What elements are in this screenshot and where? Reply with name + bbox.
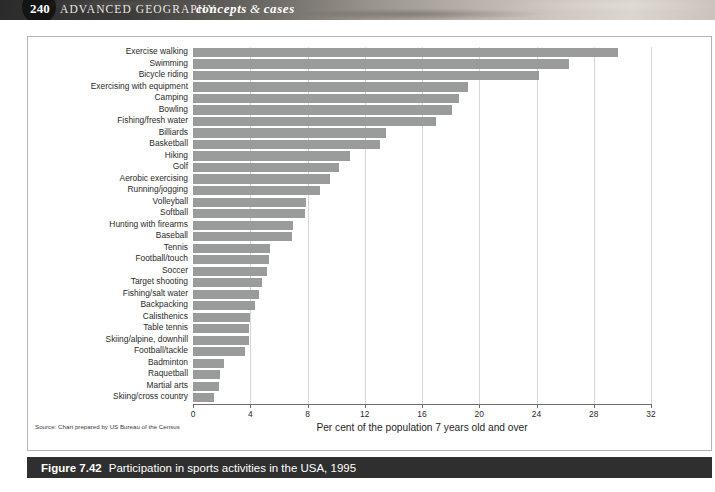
bar-row: Fishing/salt water xyxy=(193,289,651,301)
bar-row: Tennis xyxy=(193,243,651,255)
bar xyxy=(193,151,350,160)
x-tick-label: 0 xyxy=(191,409,196,419)
x-tick xyxy=(422,404,423,408)
bar-row: Volleyball xyxy=(193,197,651,209)
bar-row: Running/jogging xyxy=(193,185,651,197)
bar xyxy=(193,278,262,287)
category-label: Skiing/cross country xyxy=(113,391,188,403)
bar xyxy=(193,313,250,322)
page-header-banner: 240 ADVANCED GEOGRAPHY concepts&cases xyxy=(0,0,715,20)
bar-row: Table tennis xyxy=(193,323,651,335)
bar-row: Backpacking xyxy=(193,300,651,312)
category-label: Backpacking xyxy=(141,299,189,311)
bar xyxy=(193,290,259,299)
bar-row: Exercise walking xyxy=(193,47,651,59)
bar-row: Football/touch xyxy=(193,254,651,266)
category-label: Fishing/fresh water xyxy=(117,115,188,127)
bar xyxy=(193,140,380,149)
x-tick xyxy=(651,404,652,408)
bar xyxy=(193,221,293,230)
bar-row: Exercising with equipment xyxy=(193,82,651,94)
category-label: Bicycle riding xyxy=(139,69,188,81)
bar xyxy=(193,186,320,195)
x-tick-label: 28 xyxy=(589,409,598,419)
bar xyxy=(193,71,539,80)
page-number-blob xyxy=(22,0,56,20)
category-label: Exercising with equipment xyxy=(91,81,188,93)
x-tick xyxy=(537,404,538,408)
x-tick-label: 12 xyxy=(360,409,369,419)
category-label: Hiking xyxy=(165,150,188,162)
x-tick xyxy=(365,404,366,408)
bar-row: Aerobic exercising xyxy=(193,174,651,186)
bar-row: Hunting with firearms xyxy=(193,220,651,232)
category-label: Football/tackle xyxy=(134,345,188,357)
chart-panel: Exercise walkingSwimmingBicycle ridingEx… xyxy=(27,36,712,451)
bar xyxy=(193,163,339,172)
bar-row: Softball xyxy=(193,208,651,220)
x-tick xyxy=(193,404,194,408)
source-note: Source: Chart prepared by US Bureau of t… xyxy=(35,423,180,430)
book-title: ADVANCED GEOGRAPHY xyxy=(60,3,217,15)
bar-row: Raquetball xyxy=(193,369,651,381)
page-number: 240 xyxy=(27,1,53,17)
x-tick-label: 4 xyxy=(248,409,253,419)
bar-row: Camping xyxy=(193,93,651,105)
bar-row: Calisthenics xyxy=(193,312,651,324)
bar xyxy=(193,336,249,345)
category-label: Raquetball xyxy=(148,368,188,380)
bar-rows: Exercise walkingSwimmingBicycle ridingEx… xyxy=(193,47,651,404)
category-label: Table tennis xyxy=(143,322,188,334)
category-label: Volleyball xyxy=(153,196,188,208)
bar xyxy=(193,59,569,68)
category-label: Target shooting xyxy=(131,276,188,288)
category-label: Exercise walking xyxy=(126,46,188,58)
category-label: Soccer xyxy=(162,265,188,277)
category-label: Hunting with firearms xyxy=(109,219,188,231)
category-label: Billiards xyxy=(159,127,188,139)
category-label: Skiing/alpine, downhill xyxy=(106,334,188,346)
series-title-word-concepts: concepts xyxy=(196,1,247,16)
category-label: Football/touch xyxy=(135,253,188,265)
bar xyxy=(193,128,386,137)
bar xyxy=(193,370,220,379)
category-label: Tennis xyxy=(164,242,188,254)
bar xyxy=(193,209,305,218)
bar xyxy=(193,117,436,126)
bar-row: Swimming xyxy=(193,59,651,71)
bar-row: Martial arts xyxy=(193,381,651,393)
x-tick-label: 24 xyxy=(532,409,541,419)
bar-row: Skiing/cross country xyxy=(193,392,651,404)
figure-caption-bar: Figure 7.42 Participation in sports acti… xyxy=(27,457,712,478)
bar-row: Bicycle riding xyxy=(193,70,651,82)
bar xyxy=(193,347,245,356)
category-label: Swimming xyxy=(149,58,188,70)
category-label: Golf xyxy=(173,161,188,173)
bar-row: Basketball xyxy=(193,139,651,151)
x-tick-label: 32 xyxy=(646,409,655,419)
x-tick-label: 8 xyxy=(305,409,310,419)
bar xyxy=(193,198,306,207)
bar xyxy=(193,301,255,310)
series-title-word-cases: cases xyxy=(264,1,295,16)
bar xyxy=(193,105,452,114)
bar-row: Target shooting xyxy=(193,277,651,289)
ampersand-glyph: & xyxy=(247,1,264,16)
category-label: Basketball xyxy=(149,138,188,150)
category-label: Aerobic exercising xyxy=(120,173,188,185)
category-label: Badminton xyxy=(148,357,188,369)
bar xyxy=(193,244,270,253)
category-label: Calisthenics xyxy=(143,311,188,323)
series-title: concepts&cases xyxy=(196,1,295,17)
bar-row: Soccer xyxy=(193,266,651,278)
bar xyxy=(193,82,468,91)
bar-row: Badminton xyxy=(193,358,651,370)
bar xyxy=(193,393,214,402)
x-tick-label: 16 xyxy=(417,409,426,419)
figure-number: Figure 7.42 xyxy=(27,462,102,474)
bar-row: Skiing/alpine, downhill xyxy=(193,335,651,347)
bar xyxy=(193,174,330,183)
category-label: Bowling xyxy=(159,104,188,116)
bar xyxy=(193,324,249,333)
figure-title: Participation in sports activities in th… xyxy=(102,462,356,474)
